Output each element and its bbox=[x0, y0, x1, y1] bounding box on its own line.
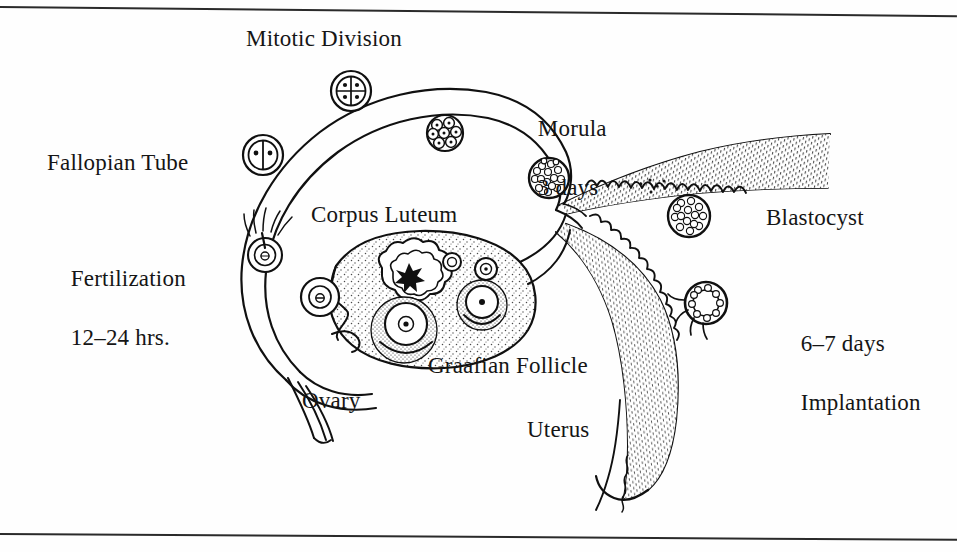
label-morula-line2: 3 days bbox=[538, 175, 599, 200]
label-fertilization: Fertilization 12–24 hrs. bbox=[47, 235, 186, 382]
label-ovary: Ovary bbox=[302, 386, 360, 416]
stage-four-cell bbox=[331, 71, 371, 111]
label-corpus-luteum: Corpus Luteum bbox=[311, 200, 457, 230]
stage-fertilization bbox=[244, 208, 292, 272]
label-morula-line1: Morula bbox=[538, 116, 607, 141]
ovary bbox=[330, 231, 536, 368]
label-blastocyst: Blastocyst bbox=[766, 203, 864, 233]
label-implantation-line2: Implantation bbox=[801, 390, 921, 415]
stage-blastocyst bbox=[668, 195, 710, 237]
label-implantation: 6–7 days Implantation bbox=[777, 300, 921, 447]
label-implantation-line1: 6–7 days bbox=[801, 331, 885, 356]
label-morula: Morula 3 days bbox=[514, 85, 607, 232]
stage-eight-cell bbox=[427, 115, 463, 151]
primordial-follicle-small bbox=[443, 253, 461, 271]
label-mitotic-division: Mitotic Division bbox=[246, 24, 402, 54]
primordial-follicle-small-2 bbox=[475, 258, 497, 280]
label-uterus: Uterus bbox=[527, 415, 590, 445]
released-ovum bbox=[301, 278, 339, 316]
label-fertilization-line1: Fertilization bbox=[71, 266, 186, 291]
label-fallopian-tube: Fallopian Tube bbox=[47, 148, 188, 178]
figure-root: Mitotic Division Fallopian Tube Fertiliz… bbox=[0, 0, 957, 552]
label-fertilization-line2: 12–24 hrs. bbox=[71, 325, 170, 350]
graafian-follicle-maturing bbox=[457, 280, 507, 330]
label-graafian-follicle: Graafian Follicle bbox=[428, 351, 588, 381]
stage-two-cell bbox=[243, 135, 283, 175]
